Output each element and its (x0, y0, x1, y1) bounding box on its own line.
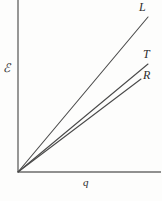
plot-canvas (0, 0, 162, 201)
series-line-T (18, 64, 148, 172)
y-axis-label: ℰ (3, 62, 10, 74)
dispersion-figure: L T R q ℰ (0, 0, 162, 201)
series-line-L (18, 17, 148, 172)
series-label-R: R (143, 69, 150, 81)
series-label-T: T (143, 48, 150, 60)
series-label-L: L (139, 1, 146, 13)
series-line-R (18, 79, 141, 172)
x-axis-label: q (83, 177, 89, 188)
